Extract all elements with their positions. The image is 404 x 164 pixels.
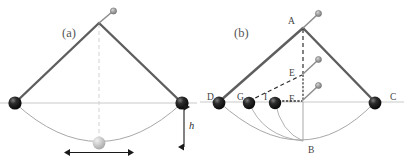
figure-container: (a) (b) A E F D G I C B h: [0, 0, 404, 164]
panel-b-pivot-ball-a: [315, 10, 321, 16]
panel-b-pivot-ball-e: [316, 57, 322, 63]
point-label-f: F: [289, 95, 294, 105]
point-label-c: C: [390, 93, 396, 103]
panel-b-bob-i: [269, 97, 281, 109]
panel-a-rod-right: [99, 23, 181, 102]
panel-a-bob-left: [8, 96, 21, 109]
point-label-b: B: [308, 146, 314, 156]
panel-a-group: [0, 8, 197, 153]
point-label-d: D: [207, 93, 214, 103]
panel-b-bob-c: [369, 97, 382, 110]
panel-a-label: (a): [62, 27, 76, 40]
point-label-a: A: [288, 17, 295, 27]
point-label-e: E: [289, 69, 295, 79]
panel-b-bob-g: [243, 97, 255, 109]
pendulum-diagram-svg: [0, 0, 404, 164]
panel-b-pivot-stick-e: [303, 61, 317, 74]
panel-b-pivot-stick-a: [303, 15, 317, 28]
panel-a-bob-bottom: [93, 137, 106, 150]
panel-a-pivot-ball: [110, 8, 116, 14]
point-label-g: G: [237, 93, 244, 103]
panel-a-bob-right: [175, 96, 188, 109]
panel-b-arc-dc: [219, 102, 375, 140]
panel-b-rod-left: [220, 28, 303, 101]
height-label-h: h: [189, 121, 194, 132]
panel-a-rod-left: [16, 23, 99, 102]
panel-a-pivot-stick: [99, 12, 112, 23]
panel-b-label: (b): [234, 27, 249, 40]
panel-b-pivot-ball-f: [316, 83, 322, 89]
panel-b-pivot-stick-f: [303, 87, 317, 100]
panel-b-group: [200, 10, 404, 141]
point-label-i: I: [264, 93, 267, 103]
panel-b-arc-ib: [275, 102, 303, 141]
panel-b-bob-d: [213, 97, 226, 110]
